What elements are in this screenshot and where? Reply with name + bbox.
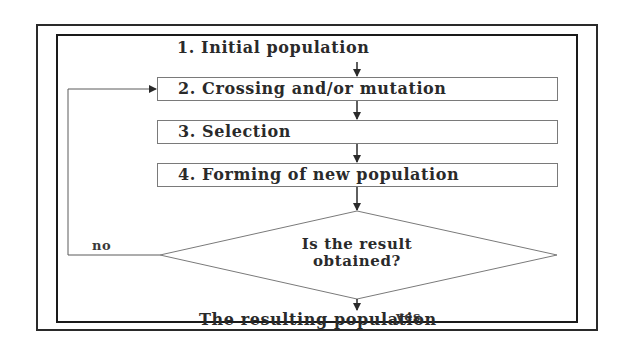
step-4-label: 4. Forming of new population bbox=[178, 165, 459, 185]
step-4-box: 4. Forming of new population bbox=[157, 163, 558, 187]
result-label: The resulting population bbox=[199, 310, 437, 330]
step-1-initial-population: 1. Initial population bbox=[177, 38, 369, 58]
decision-text: Is the result obtained? bbox=[277, 236, 437, 270]
step-3-box: 3. Selection bbox=[157, 120, 558, 144]
flowchart-canvas: 1. Initial population 2. Crossing and/or… bbox=[0, 0, 630, 352]
step-2-box: 2. Crossing and/or mutation bbox=[157, 77, 558, 101]
step-2-label: 2. Crossing and/or mutation bbox=[178, 79, 447, 99]
decision-line-1: Is the result bbox=[277, 236, 437, 253]
arrow-no-loop bbox=[68, 89, 160, 255]
decision-line-2: obtained? bbox=[277, 253, 437, 270]
no-label: no bbox=[92, 238, 111, 253]
step-3-label: 3. Selection bbox=[178, 122, 291, 142]
